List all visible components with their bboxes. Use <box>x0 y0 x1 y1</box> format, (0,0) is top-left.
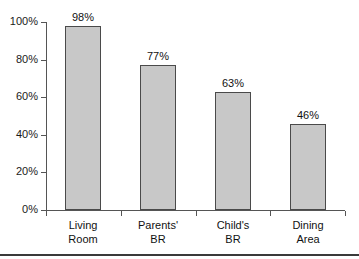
y-tick-label: 80% <box>0 54 38 65</box>
page-bottom-rule <box>0 254 359 256</box>
y-tick-mark <box>41 172 46 173</box>
bar[interactable] <box>215 92 251 210</box>
category-label-line: Parents' <box>118 219 198 232</box>
x-tick-mark <box>270 211 271 216</box>
y-axis-line <box>46 22 47 211</box>
x-tick-mark <box>345 211 346 216</box>
y-tick-mark <box>41 22 46 23</box>
category-label-line: BR <box>118 233 198 246</box>
bar-value-label: 46% <box>278 109 338 121</box>
bar-chart-figure: 0%20%40%60%80%100% 98%77%63%46% LivingRo… <box>0 0 359 259</box>
bar[interactable] <box>65 26 101 210</box>
y-tick-label: 100% <box>0 16 38 27</box>
x-tick-mark <box>46 211 47 216</box>
bar-value-label: 98% <box>53 11 113 23</box>
y-tick-label: 0% <box>0 204 38 215</box>
bar[interactable] <box>290 124 326 210</box>
x-tick-mark <box>196 211 197 216</box>
category-label-line: Child's <box>193 219 273 232</box>
category-label-line: Dining <box>268 219 348 232</box>
category-label-line: Room <box>43 233 123 246</box>
y-tick-mark <box>41 135 46 136</box>
y-tick-mark <box>41 97 46 98</box>
category-label-line: Area <box>268 233 348 246</box>
y-tick-label: 20% <box>0 166 38 177</box>
bar-value-label: 63% <box>203 77 263 89</box>
category-label-line: BR <box>193 233 273 246</box>
y-tick-label: 60% <box>0 91 38 102</box>
x-tick-mark <box>121 211 122 216</box>
y-tick-label: 40% <box>0 129 38 140</box>
y-tick-mark <box>41 60 46 61</box>
bar-value-label: 77% <box>128 50 188 62</box>
category-label-line: Living <box>43 219 123 232</box>
bar[interactable] <box>140 65 176 210</box>
